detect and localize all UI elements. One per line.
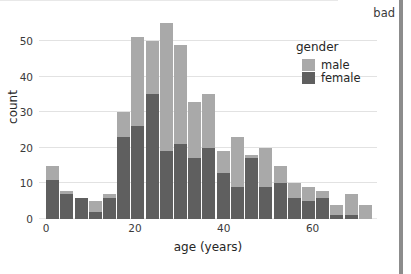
bar-segment-female: [188, 158, 201, 219]
legend-swatch-female: [302, 72, 315, 84]
legend-label: male: [321, 59, 350, 71]
bar-segment-female: [259, 187, 272, 219]
bar: [146, 41, 159, 219]
x-tick-label: 0: [43, 223, 50, 234]
bar: [188, 101, 201, 219]
bar: [274, 166, 287, 219]
annotation-label: bad: [373, 6, 395, 20]
bar-segment-female: [103, 198, 116, 219]
x-axis-line: [0, 0, 338, 1]
bar-segment-male: [117, 112, 130, 137]
bar-segment-female: [245, 158, 258, 219]
bar-segment-male: [46, 166, 59, 180]
bar-segment-male: [160, 23, 173, 151]
bar-segment-male: [89, 201, 102, 212]
bar-segment-female: [117, 137, 130, 219]
bar-segment-female: [89, 212, 102, 219]
annotation-marker-bar: [399, 0, 403, 274]
bar-segment-male: [217, 151, 230, 172]
bar: [160, 23, 173, 219]
bar: [330, 205, 343, 219]
bar-segment-male: [288, 183, 301, 197]
bar: [345, 194, 358, 219]
legend-item-female: female: [302, 72, 361, 84]
bar-segment-male: [330, 205, 343, 216]
bar: [89, 201, 102, 219]
bar-segment-female: [217, 173, 230, 219]
bar-segment-female: [131, 126, 144, 219]
bar: [117, 112, 130, 219]
bar-segment-female: [75, 198, 88, 219]
bar-segment-female: [274, 183, 287, 219]
bar-segment-male: [274, 166, 287, 184]
legend-item-male: male: [302, 59, 361, 71]
bar-segment-female: [46, 180, 59, 219]
bar-segment-female: [231, 187, 244, 219]
legend-entries: malefemale: [296, 59, 361, 84]
bar: [75, 198, 88, 219]
bar: [259, 148, 272, 219]
legend-swatch-male: [302, 59, 315, 71]
bar-segment-female: [60, 194, 73, 219]
x-tick-label: 40: [217, 223, 230, 234]
bar-segment-female: [160, 151, 173, 219]
bar: [174, 45, 187, 220]
bar: [245, 155, 258, 219]
bar-segment-female: [288, 198, 301, 219]
bar: [217, 151, 230, 219]
bar: [60, 191, 73, 219]
bar: [131, 37, 144, 219]
bar-segment-male: [359, 205, 372, 219]
bar: [302, 187, 315, 219]
bar-segment-male: [231, 137, 244, 187]
bar-segment-female: [330, 215, 343, 219]
bar: [288, 183, 301, 219]
bar: [231, 137, 244, 219]
legend-title: gender: [296, 40, 361, 54]
bar-segment-male: [345, 194, 358, 215]
bar: [46, 166, 59, 219]
bar: [103, 194, 116, 219]
bar-segment-male: [259, 148, 272, 187]
bar-segment-female: [302, 201, 315, 219]
legend: gender malefemale: [296, 40, 361, 85]
bar-segment-male: [202, 94, 215, 147]
x-axis-tick-labels: 0204060: [39, 223, 377, 237]
legend-label: female: [321, 72, 361, 84]
x-tick-label: 60: [306, 223, 319, 234]
bar-segment-female: [202, 148, 215, 219]
y-axis-tick-labels: 01020304050: [0, 16, 33, 219]
bar-segment-female: [316, 198, 329, 219]
bar: [202, 94, 215, 219]
bar-segment-male: [188, 102, 201, 159]
bar-segment-male: [302, 187, 315, 201]
bar-segment-male: [131, 37, 144, 126]
bar-segment-male: [174, 45, 187, 145]
bar-segment-male: [316, 191, 329, 198]
bar-segment-female: [345, 215, 358, 219]
bar-segment-female: [174, 144, 187, 219]
bar: [359, 205, 372, 219]
histogram-figure: count 01020304050 0204060 age (years) ge…: [0, 0, 411, 274]
bar-segment-male: [146, 41, 159, 94]
x-axis-title: age (years): [39, 240, 377, 254]
bar-segment-female: [146, 94, 159, 219]
bar: [316, 191, 329, 219]
x-tick-label: 20: [128, 223, 141, 234]
